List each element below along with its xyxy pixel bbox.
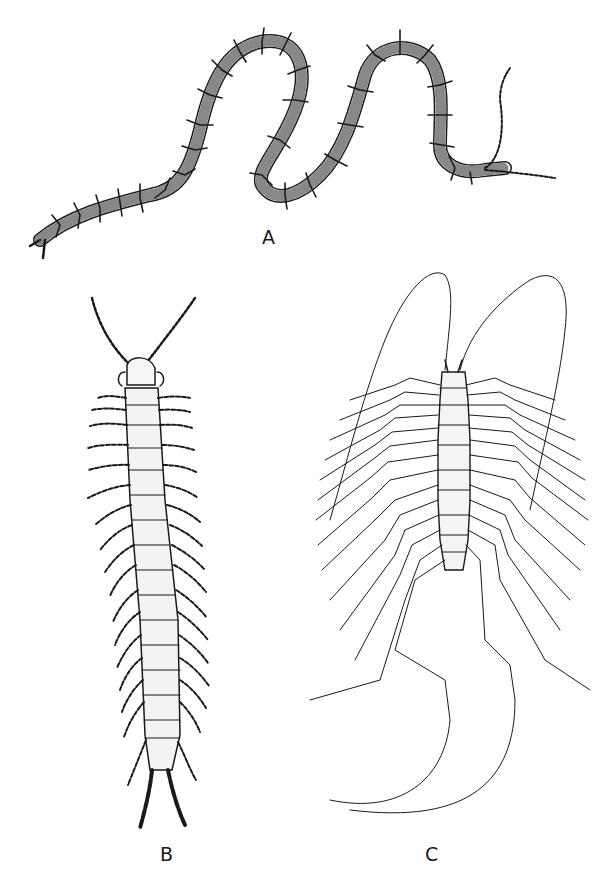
- figure-c-centipede: [0, 0, 605, 871]
- figure-c-label: C: [425, 843, 438, 865]
- illustration-plate: A: [0, 0, 605, 871]
